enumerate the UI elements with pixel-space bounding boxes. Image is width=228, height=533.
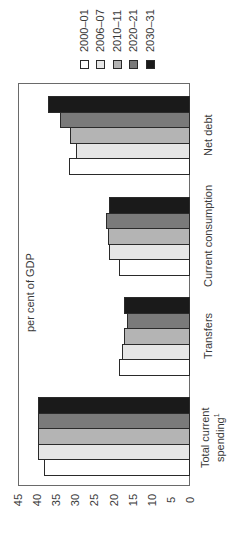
- bar: [109, 197, 190, 214]
- bar: [76, 143, 190, 160]
- bar: [70, 127, 190, 144]
- tick-label: 20: [108, 488, 120, 512]
- bar: [124, 328, 190, 345]
- bar: [122, 344, 190, 361]
- bar: [69, 158, 190, 175]
- legend-label: 2000–01: [78, 9, 90, 52]
- legend-label: 2010–11: [111, 10, 123, 52]
- bar: [127, 313, 190, 330]
- bar: [38, 397, 190, 414]
- tick-label: 0: [184, 488, 196, 512]
- bar: [109, 244, 190, 261]
- bar: [124, 297, 190, 314]
- legend-label: 2006–07: [94, 9, 106, 52]
- tick-label: 5: [165, 488, 177, 512]
- bar: [106, 213, 190, 230]
- axis-label: per cent of GDP: [24, 253, 36, 332]
- category-label: Net debt: [202, 114, 214, 156]
- bar: [38, 413, 190, 430]
- tick-label: 45: [12, 488, 24, 512]
- tick-label: 25: [88, 488, 100, 512]
- category-label: Transfers: [202, 313, 214, 359]
- category-label: Total currentspending1: [199, 407, 226, 468]
- legend-swatch: [96, 60, 105, 69]
- tick-label: 35: [50, 488, 62, 512]
- bar: [38, 428, 190, 445]
- bar: [119, 359, 190, 376]
- tick-label: 30: [69, 488, 81, 512]
- bar: [48, 96, 190, 113]
- legend-swatch: [129, 60, 138, 69]
- bar: [44, 459, 190, 476]
- bar: [60, 112, 190, 129]
- legend-label: 2030–31: [144, 9, 156, 52]
- legend-swatch: [113, 60, 122, 69]
- legend-swatch: [80, 60, 89, 69]
- legend-label: 2020–21: [127, 9, 139, 52]
- tick-label: 40: [31, 488, 43, 512]
- category-label: Current consumption: [202, 185, 214, 287]
- bar: [119, 259, 190, 276]
- legend-swatch: [146, 60, 155, 69]
- tick-label: 10: [146, 488, 158, 512]
- tick-label: 15: [127, 488, 139, 512]
- bar: [38, 444, 190, 461]
- bar: [108, 228, 190, 245]
